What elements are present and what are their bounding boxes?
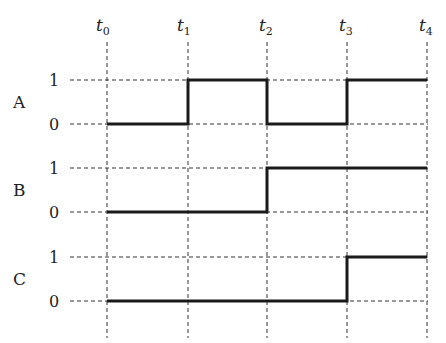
time-labels: t0 t1 t2 t3 t4 xyxy=(96,15,433,38)
time-label-t3: t3 xyxy=(339,15,353,38)
waveform-b xyxy=(107,168,427,212)
level-gridlines xyxy=(70,80,428,301)
level-label-c-low: 0 xyxy=(49,292,59,311)
time-label-t2: t2 xyxy=(259,15,273,38)
signal-labels: A B C xyxy=(12,92,26,289)
signal-label-b: B xyxy=(13,180,26,200)
level-label-b-high: 1 xyxy=(49,159,59,178)
level-label-a-low: 0 xyxy=(49,115,59,134)
time-label-t0: t0 xyxy=(96,15,110,38)
time-label-t4: t4 xyxy=(419,15,433,38)
time-label-t1: t1 xyxy=(177,15,191,38)
waveform-a xyxy=(107,80,427,124)
level-label-a-high: 1 xyxy=(49,71,59,90)
signal-label-c: C xyxy=(13,269,26,289)
timing-diagram: t0 t1 t2 t3 t4 A B C 1 0 1 0 1 0 xyxy=(0,0,446,343)
level-label-c-high: 1 xyxy=(49,248,59,267)
level-label-b-low: 0 xyxy=(49,203,59,222)
signal-label-a: A xyxy=(12,92,26,112)
level-labels: 1 0 1 0 1 0 xyxy=(49,71,59,311)
